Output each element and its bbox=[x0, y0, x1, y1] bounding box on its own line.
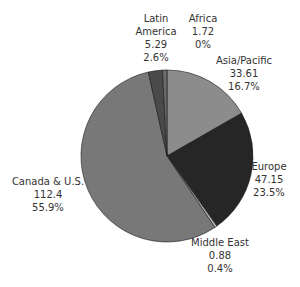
label-asia-pacific-value: 33.61 bbox=[216, 67, 272, 80]
label-africa-value: 1.72 bbox=[189, 25, 218, 38]
label-middle-east-name: Middle East bbox=[191, 236, 249, 249]
label-middle-east-value: 0.88 bbox=[191, 249, 249, 262]
label-latin-america-name-1: Latin bbox=[135, 12, 176, 25]
label-europe: Europe 47.15 23.5% bbox=[251, 160, 286, 199]
label-asia-pacific-pct: 16.7% bbox=[216, 80, 272, 93]
label-europe-value: 47.15 bbox=[251, 173, 286, 186]
label-africa-name: Africa bbox=[189, 12, 218, 25]
label-middle-east-pct: 0.4% bbox=[191, 262, 249, 275]
label-latin-america-pct: 2.6% bbox=[135, 51, 176, 64]
label-asia-pacific: Asia/Pacific 33.61 16.7% bbox=[216, 54, 272, 93]
label-asia-pacific-name: Asia/Pacific bbox=[216, 54, 272, 67]
label-europe-name: Europe bbox=[251, 160, 286, 173]
label-africa-pct: 0% bbox=[189, 38, 218, 51]
label-canada-us-pct: 55.9% bbox=[12, 201, 84, 214]
label-europe-pct: 23.5% bbox=[251, 186, 286, 199]
label-canada-us-name: Canada & U.S. bbox=[12, 175, 84, 188]
label-middle-east: Middle East 0.88 0.4% bbox=[191, 236, 249, 275]
pie-slices bbox=[81, 70, 253, 242]
label-latin-america: Latin America 5.29 2.6% bbox=[135, 12, 176, 64]
label-latin-america-name-2: America bbox=[135, 25, 176, 38]
label-canada-us: Canada & U.S. 112.4 55.9% bbox=[12, 175, 84, 214]
label-canada-us-value: 112.4 bbox=[12, 188, 84, 201]
label-latin-america-value: 5.29 bbox=[135, 38, 176, 51]
label-africa: Africa 1.72 0% bbox=[189, 12, 218, 51]
